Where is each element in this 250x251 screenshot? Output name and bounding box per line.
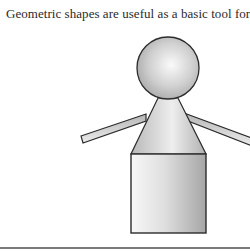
geometric-figure bbox=[0, 0, 250, 251]
left-arm bbox=[81, 114, 146, 143]
horizontal-rule bbox=[0, 247, 250, 249]
head-circle bbox=[137, 37, 199, 99]
lower-body-rectangle bbox=[131, 154, 206, 233]
body-triangle bbox=[131, 98, 206, 154]
